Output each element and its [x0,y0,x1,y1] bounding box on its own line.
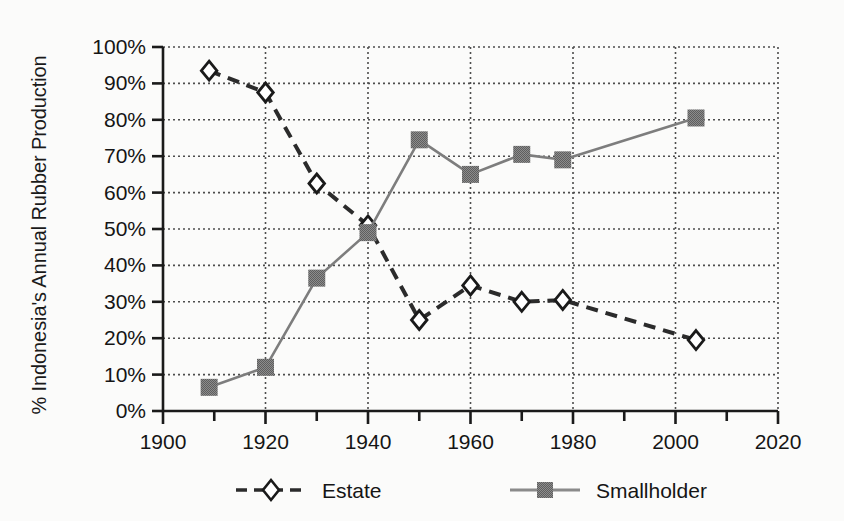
x-tick-label: 1960 [426,431,516,452]
y-tick-label: 20% [74,327,146,348]
y-tick-label: 70% [74,145,146,166]
legend-label-estate: Estate [322,480,382,501]
y-tick-label: 30% [74,291,146,312]
y-tick-label: 100% [74,36,146,57]
legend-label-smallholder: Smallholder [596,480,707,501]
y-tick-label: 10% [74,364,146,385]
chart-legend: Estate Smallholder [0,470,844,510]
gridlines [163,47,778,411]
x-tick-label: 2020 [733,431,823,452]
axis-ticks [152,47,778,424]
legend-entry-estate[interactable]: Estate [234,470,382,510]
x-tick-label: 1980 [528,431,618,452]
smallholder-line-marker-sample [508,477,582,503]
x-tick-label: 1920 [221,431,311,452]
y-tick-label: 40% [74,254,146,275]
chart-figure: % Indonesia's Annual Rubber Production 0… [0,0,844,521]
y-tick-label: 80% [74,109,146,130]
x-tick-label: 1940 [323,431,413,452]
legend-entry-smallholder[interactable]: Smallholder [508,470,707,510]
estate-line-marker-sample [234,477,308,503]
y-tick-label: 60% [74,182,146,203]
y-tick-label: 90% [74,72,146,93]
x-tick-label: 1900 [118,431,208,452]
y-tick-label: 50% [74,218,146,239]
x-tick-label: 2000 [631,431,721,452]
y-tick-label: 0% [74,400,146,421]
